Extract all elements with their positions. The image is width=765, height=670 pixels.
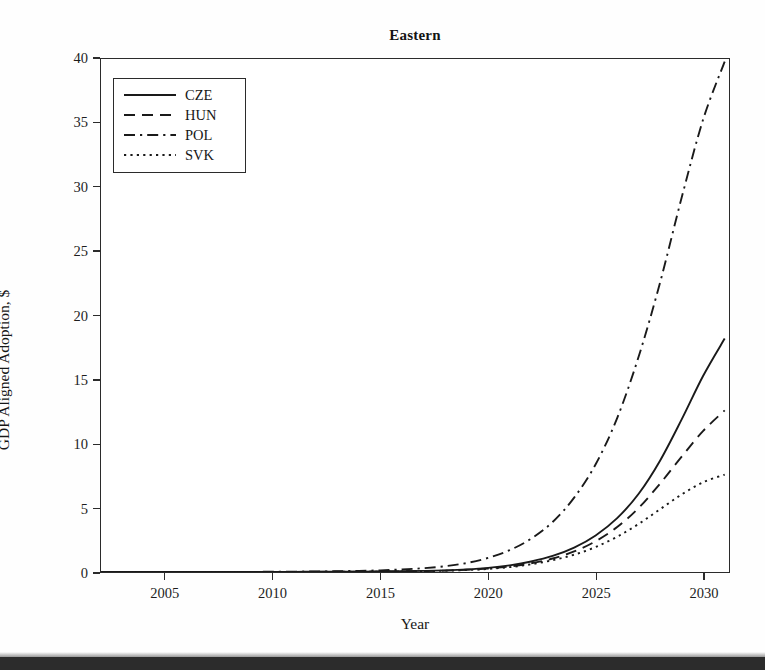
- y-tick-mark: [93, 122, 100, 123]
- x-tick-label: 2010: [243, 585, 303, 602]
- y-tick-label: 0: [48, 565, 88, 582]
- series-line-svk: [101, 475, 725, 572]
- x-tick-mark: [703, 573, 704, 580]
- y-tick-label: 40: [48, 50, 88, 67]
- x-axis-label: Year: [100, 615, 730, 633]
- y-tick-label: 15: [48, 371, 88, 388]
- x-tick-mark: [596, 573, 597, 580]
- y-tick-mark: [93, 315, 100, 316]
- page-edge-bar: [0, 657, 765, 670]
- y-axis-label: GDP Aligned Adoption, $: [0, 200, 13, 540]
- series-line-cze: [101, 339, 725, 572]
- y-tick-mark: [93, 250, 100, 251]
- y-tick-mark: [93, 186, 100, 187]
- legend: CZEHUNPOLSVK: [113, 78, 246, 173]
- legend-line-sample-cze: [123, 89, 177, 101]
- y-tick-label: 25: [48, 243, 88, 260]
- legend-line-sample-svk: [123, 149, 177, 161]
- y-tick-label: 30: [48, 178, 88, 195]
- legend-line-sample-hun: [123, 109, 177, 121]
- legend-item-cze[interactable]: CZE: [114, 85, 245, 105]
- page-title: Eastern: [100, 27, 730, 44]
- x-tick-mark: [380, 573, 381, 580]
- y-tick-label: 5: [48, 500, 88, 517]
- x-tick-label: 2005: [135, 585, 195, 602]
- x-tick-label: 2030: [674, 585, 734, 602]
- y-tick-label: 35: [48, 114, 88, 131]
- x-tick-label: 2020: [458, 585, 518, 602]
- y-tick-label: 10: [48, 436, 88, 453]
- legend-label: CZE: [185, 88, 212, 103]
- y-tick-mark: [93, 379, 100, 380]
- x-tick-label: 2015: [350, 585, 410, 602]
- x-tick-mark: [164, 573, 165, 580]
- legend-line-sample-pol: [123, 129, 177, 141]
- legend-label: POL: [185, 128, 212, 143]
- chart-figure: Eastern 0510152025303540 200520102015202…: [0, 0, 765, 670]
- legend-item-hun[interactable]: HUN: [114, 105, 245, 125]
- series-line-hun: [101, 410, 725, 572]
- y-tick-label: 20: [48, 307, 88, 324]
- y-tick-mark: [93, 57, 100, 58]
- legend-item-pol[interactable]: POL: [114, 125, 245, 145]
- legend-item-svk[interactable]: SVK: [114, 145, 245, 165]
- legend-label: HUN: [185, 108, 216, 123]
- y-tick-mark: [93, 508, 100, 509]
- legend-label: SVK: [185, 148, 214, 163]
- y-tick-mark: [93, 572, 100, 573]
- y-tick-mark: [93, 444, 100, 445]
- x-tick-mark: [488, 573, 489, 580]
- x-tick-label: 2025: [566, 585, 626, 602]
- x-tick-mark: [272, 573, 273, 580]
